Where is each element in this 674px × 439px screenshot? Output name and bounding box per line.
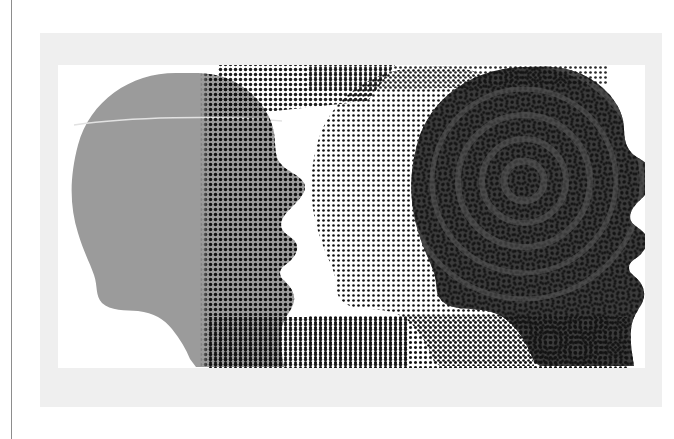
artwork-svg xyxy=(58,65,645,368)
bottom-dot-band xyxy=(208,313,628,368)
page-margin-rule xyxy=(11,0,12,439)
inner-artboard xyxy=(58,65,645,368)
artwork-canvas xyxy=(0,0,674,439)
